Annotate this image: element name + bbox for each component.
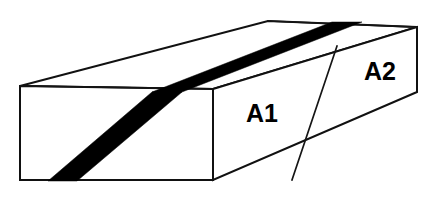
block-diagram-canvas: A1 A2	[0, 0, 431, 201]
region-label-a1: A1	[246, 99, 278, 127]
block-diagram-figure: A1 A2	[0, 0, 431, 201]
region-label-a2: A2	[364, 57, 396, 85]
